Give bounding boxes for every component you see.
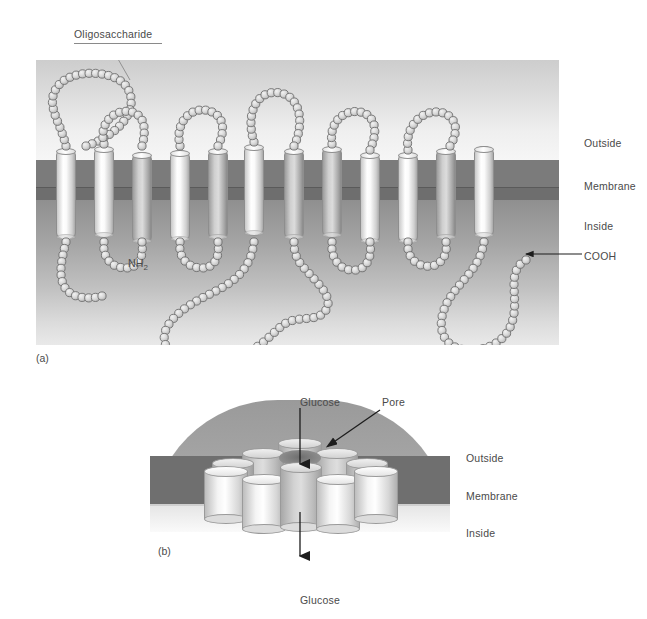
panel-b-pore-diagram	[150, 400, 480, 540]
panel-b-tag: (b)	[158, 545, 171, 557]
panel-a-membrane-label: Membrane	[584, 180, 636, 192]
panel-a-inside-label: Inside	[584, 220, 613, 232]
amino-acid-bead	[446, 142, 454, 150]
amino-acid-bead	[138, 142, 146, 150]
cooh-arrow	[520, 248, 584, 262]
amino-acid-bead	[214, 238, 222, 246]
polypeptide-bead-chains	[36, 60, 559, 345]
oligosaccharide-label: Oligosaccharide	[74, 28, 152, 40]
amino-acid-bead	[98, 292, 106, 300]
pore-label: Pore	[382, 396, 405, 408]
pore-pointer-arrow	[328, 410, 380, 446]
panel-a-tag: (a)	[36, 352, 49, 364]
amino-acid-bead	[366, 146, 374, 154]
panel-a-outside-label: Outside	[584, 137, 622, 149]
amino-acid-bead	[290, 238, 298, 246]
amino-acid-bead	[442, 238, 450, 246]
amino-acid-bead	[366, 238, 374, 246]
panel-b-outside-label: Outside	[466, 452, 504, 464]
amino-acid-bead	[138, 238, 146, 246]
panel-b-membrane-label: Membrane	[466, 490, 518, 502]
n-terminus-label: NH2	[128, 257, 148, 272]
amino-acid-bead	[161, 340, 169, 345]
amino-acid-bead	[82, 142, 90, 150]
amino-acid-bead	[290, 142, 298, 150]
oligosaccharide-underline	[74, 43, 162, 44]
panel-a-topology-diagram	[36, 60, 559, 345]
c-terminus-label: COOH	[584, 250, 616, 262]
nh2-text: NH	[128, 257, 144, 269]
glucose-top-label: Glucose	[300, 396, 340, 408]
amino-acid-bead	[214, 142, 222, 150]
panel-b-inside-label: Inside	[466, 527, 495, 539]
glucose-bottom-label: Glucose	[300, 594, 340, 606]
nh2-subscript: 2	[144, 263, 149, 272]
